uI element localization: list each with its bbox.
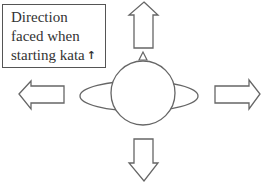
facing-marker-icon xyxy=(139,52,147,60)
caption-line-2: faced when xyxy=(11,27,105,46)
caption-line-1: Direction xyxy=(11,8,105,27)
caption-box: Direction faced when starting kata↑ xyxy=(2,4,106,68)
up-arrow-icon: ↑ xyxy=(87,46,96,65)
kata-direction-diagram: Direction faced when starting kata↑ xyxy=(0,0,261,182)
head-circle xyxy=(111,61,175,125)
caption-line-3-text: starting kata xyxy=(11,47,85,63)
up-arrow-icon xyxy=(129,2,158,48)
left-arrow-icon xyxy=(19,81,64,109)
caption-line-3: starting kata↑ xyxy=(11,46,105,65)
down-arrow-icon xyxy=(129,139,158,181)
right-arrow-icon xyxy=(215,80,260,109)
